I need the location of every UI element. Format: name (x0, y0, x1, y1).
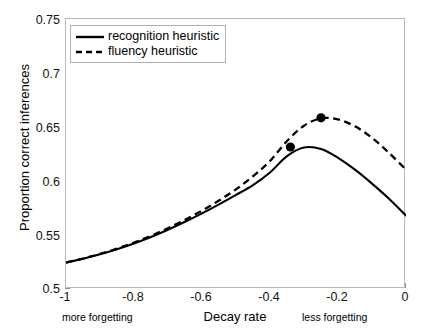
series-line-fluency-heuristic (66, 118, 406, 263)
x-tick--0.2: -0.2 (312, 291, 362, 304)
legend-box: recognition heuristic fluency heuristic (70, 25, 226, 63)
series-line-recognition-heuristic (66, 147, 406, 263)
series-peak-markers (286, 113, 326, 151)
x-tick--0.6: -0.6 (176, 291, 226, 304)
x-tick--0.4: -0.4 (244, 291, 294, 304)
x-tick--0.8: -0.8 (108, 291, 158, 304)
y-tick-0.65: 0.65 (36, 122, 60, 134)
peak-marker (286, 142, 295, 151)
y-axis-title: Proportion correct inferences (17, 48, 32, 248)
figure-canvas: 0.75 0.7 0.65 0.6 0.55 0.5 -1 -0.8 -0.6 … (0, 0, 428, 335)
legend-item-fluency-heuristic: fluency heuristic (75, 44, 219, 59)
annotation-less-forgetting: less forgetting (302, 311, 367, 323)
y-tick-0.6: 0.6 (43, 176, 60, 188)
y-tick-0.75: 0.75 (36, 14, 60, 26)
x-axis-title: Decay rate (165, 309, 305, 324)
legend-label-fluency-heuristic: fluency heuristic (108, 45, 198, 58)
annotation-more-forgetting: more forgetting (62, 311, 133, 323)
legend-item-recognition-heuristic: recognition heuristic (75, 29, 219, 44)
y-tick-0.55: 0.55 (36, 230, 60, 242)
legend-label-recognition-heuristic: recognition heuristic (108, 30, 219, 43)
x-tick-0: 0 (385, 291, 425, 304)
peak-marker (316, 113, 325, 122)
y-tick-0.7: 0.7 (43, 68, 60, 80)
legend-solid-line-icon (75, 31, 105, 43)
x-tick--1: -1 (45, 291, 85, 304)
legend-dashed-line-icon (75, 46, 105, 58)
